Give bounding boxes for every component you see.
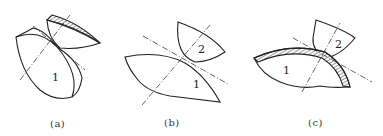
panel-a-body1-label: 1 [52,71,59,84]
panel-c [254,20,372,92]
panel-b [125,22,228,105]
panel-a-caption: (a) [50,118,65,129]
panel-b-caption: (b) [164,117,180,128]
diagram-drawing [0,0,383,136]
panel-b-body2-label: 2 [198,43,205,56]
panel-c-caption: (c) [308,117,323,128]
contact-types-figure: 1 (a) 2 1 (b) 2 1 (c) [0,0,383,136]
panel-c-body1-label: 1 [283,64,290,77]
panel-b-body1-label: 1 [193,78,200,91]
panel-c-body2-label: 2 [335,38,342,51]
panel-a [16,15,100,98]
